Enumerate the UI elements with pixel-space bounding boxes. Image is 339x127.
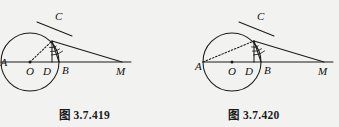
- point-label-B-420: B: [264, 64, 271, 76]
- center-dot-O-420: [231, 61, 234, 64]
- dotted-segment-A-C-420: [203, 41, 254, 62]
- point-label-M-419: M: [115, 65, 126, 77]
- figure-419: A O D B M C 图 3.7.419: [0, 0, 169, 127]
- figure-420-caption: 图 3.7.420: [169, 106, 339, 122]
- point-label-O-420: O: [228, 65, 236, 77]
- dotted-segment-O-C-419: [30, 41, 52, 62]
- point-label-M-420: M: [317, 65, 328, 77]
- tangent-line-at-C-420: [239, 22, 274, 36]
- point-label-A-419: A: [0, 56, 8, 68]
- point-label-A-420: A: [194, 60, 202, 72]
- center-dot-O-419: [29, 61, 32, 64]
- point-label-C-420: C: [257, 10, 265, 22]
- tangent-line-at-C-419: [37, 22, 72, 36]
- figure-419-caption: 图 3.7.419: [0, 106, 169, 122]
- point-label-D-420: D: [244, 65, 253, 77]
- point-label-O-419: O: [26, 65, 34, 77]
- figure-420: A O D B M C 图 3.7.420: [169, 0, 339, 127]
- point-label-B-419: B: [62, 64, 69, 76]
- figure-420-drawing: A O D B M C: [169, 0, 339, 110]
- figure-pair: A O D B M C 图 3.7.419: [0, 0, 339, 127]
- point-label-C-419: C: [55, 10, 63, 22]
- figure-419-drawing: A O D B M C: [0, 0, 169, 110]
- point-label-D-419: D: [42, 65, 51, 77]
